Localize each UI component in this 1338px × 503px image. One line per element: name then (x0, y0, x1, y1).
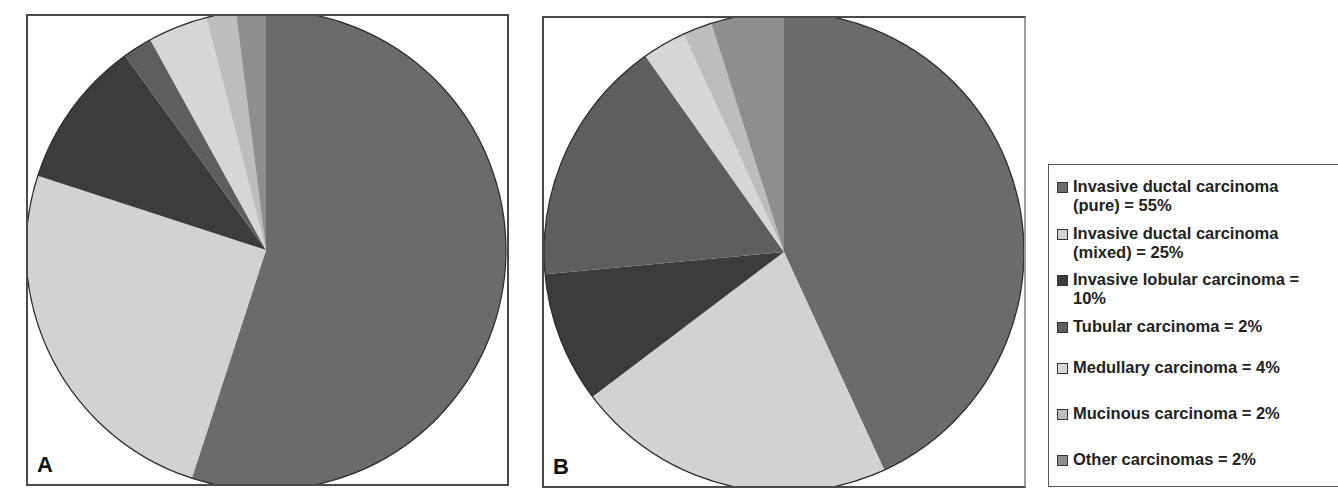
legend-swatch (1057, 363, 1068, 374)
legend-label: Mucinous carcinoma = 2% (1073, 404, 1280, 423)
chart-legend: Invasive ductal carcinoma (pure) = 55% I… (1048, 164, 1338, 487)
legend-item-other: Other carcinomas = 2% (1057, 450, 1256, 469)
pie-chart-panel-b: B (542, 16, 1026, 488)
legend-swatch (1057, 182, 1068, 193)
legend-label: Other carcinomas = 2% (1073, 450, 1256, 469)
legend-label: Medullary carcinoma = 4% (1073, 358, 1280, 377)
legend-label: Invasive ductal carcinoma (mixed) = 25% (1073, 224, 1278, 262)
panel-label-b: B (553, 454, 569, 480)
legend-item-lobular: Invasive lobular carcinoma = 10% (1057, 270, 1299, 308)
legend-item-medullary: Medullary carcinoma = 4% (1057, 358, 1280, 377)
legend-item-tubular: Tubular carcinoma = 2% (1057, 317, 1262, 336)
legend-swatch (1057, 409, 1068, 420)
legend-label: Tubular carcinoma = 2% (1073, 317, 1262, 336)
pie-chart-b (544, 18, 1024, 486)
pie-chart-panel-a: A (26, 14, 509, 486)
legend-swatch (1057, 455, 1068, 466)
legend-swatch (1057, 275, 1068, 286)
legend-item-ductal-pure: Invasive ductal carcinoma (pure) = 55% (1057, 177, 1278, 215)
legend-item-mucinous: Mucinous carcinoma = 2% (1057, 404, 1280, 423)
legend-item-ductal-mixed: Invasive ductal carcinoma (mixed) = 25% (1057, 224, 1278, 262)
legend-label: Invasive ductal carcinoma (pure) = 55% (1073, 177, 1278, 215)
panel-label-a: A (37, 452, 53, 478)
legend-label: Invasive lobular carcinoma = 10% (1073, 270, 1299, 308)
legend-swatch (1057, 322, 1068, 333)
legend-swatch (1057, 229, 1068, 240)
pie-chart-a (28, 16, 507, 484)
